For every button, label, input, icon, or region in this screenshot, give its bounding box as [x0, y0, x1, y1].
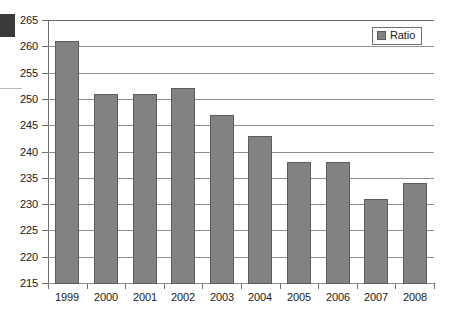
x-tick-mark-8	[357, 284, 358, 289]
bar-2003	[210, 115, 234, 284]
x-tick-mark-6	[280, 284, 281, 289]
x-tick-mark-end	[434, 284, 435, 289]
x-tick-label-2007: 2007	[356, 292, 396, 303]
x-tick-mark-9	[395, 284, 396, 289]
x-tick-label-2001: 2001	[125, 292, 165, 303]
y-tick-label-220: 220	[8, 252, 38, 263]
y-tick-label-240: 240	[8, 147, 38, 158]
x-tick-label-2005: 2005	[279, 292, 319, 303]
bar-2007	[364, 199, 388, 284]
legend-label-ratio: Ratio	[390, 30, 415, 41]
bar-2004	[248, 136, 272, 284]
gridline-265	[48, 20, 434, 21]
y-tick-label-255: 255	[8, 68, 38, 79]
y-tick-label-215: 215	[8, 278, 38, 289]
x-tick-mark-4	[202, 284, 203, 289]
y-tick-label-250: 250	[8, 94, 38, 105]
x-tick-label-2008: 2008	[395, 292, 435, 303]
x-tick-mark-7	[318, 284, 319, 289]
x-tick-label-2000: 2000	[86, 292, 126, 303]
y-tick-label-245: 245	[8, 120, 38, 131]
x-tick-mark-5	[241, 284, 242, 289]
bar-2001	[133, 94, 157, 284]
y-tick-label-225: 225	[8, 225, 38, 236]
bar-2000	[94, 94, 118, 284]
gridline-260	[48, 46, 434, 47]
plot-area	[48, 20, 434, 283]
x-tick-mark-2	[125, 284, 126, 289]
bar-2006	[326, 162, 350, 284]
legend-swatch-ratio	[377, 31, 386, 40]
x-tick-label-2004: 2004	[240, 292, 280, 303]
x-tick-label-2003: 2003	[202, 292, 242, 303]
gridline-255	[48, 73, 434, 74]
y-tick-label-235: 235	[8, 173, 38, 184]
y-tick-label-260: 260	[8, 41, 38, 52]
x-tick-label-2006: 2006	[318, 292, 358, 303]
bar-2008	[403, 183, 427, 284]
legend: Ratio	[372, 27, 422, 45]
y-tick-label-265: 265	[8, 15, 38, 26]
y-tick-label-230: 230	[8, 199, 38, 210]
bar-2005	[287, 162, 311, 284]
bar-1999	[55, 41, 79, 284]
x-tick-mark-0	[48, 284, 49, 289]
x-tick-label-1999: 1999	[47, 292, 87, 303]
bar-2002	[171, 88, 195, 284]
bar-chart: 265260255250245240235230225220215 199920…	[0, 0, 464, 318]
x-tick-label-2002: 2002	[163, 292, 203, 303]
x-tick-mark-3	[164, 284, 165, 289]
x-tick-mark-1	[87, 284, 88, 289]
